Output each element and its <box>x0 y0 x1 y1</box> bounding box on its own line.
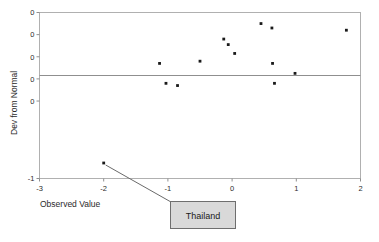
x-tick-label: -1 <box>165 184 172 193</box>
x-axis-title: Observed Value <box>40 199 101 209</box>
y-axis-title: Dev from Normal <box>9 71 19 135</box>
y-tick-label: 0 <box>30 8 34 17</box>
x-tick-label: 0 <box>230 184 234 193</box>
x-tick-label: -3 <box>36 184 43 193</box>
x-tick-label: 2 <box>358 184 362 193</box>
data-point <box>199 60 202 63</box>
data-point <box>176 84 179 87</box>
data-point <box>260 22 263 25</box>
y-tick-label: -1 <box>28 174 35 183</box>
x-axis-tick-labels: -3-2-1012 <box>36 184 362 193</box>
data-point <box>227 43 230 46</box>
data-point <box>271 62 274 65</box>
y-tick-label: 0 <box>30 97 34 106</box>
y-tick-label: 0 <box>30 30 34 39</box>
callout-box-label: Thailand <box>186 211 221 221</box>
callout-leader-line <box>106 165 171 202</box>
data-point <box>345 29 348 32</box>
y-tick-label: 0 <box>30 53 34 62</box>
data-point <box>158 62 161 65</box>
chart-container: 00000-1 -3-2-1012 Observed Value Dev fro… <box>0 0 379 242</box>
data-point <box>222 38 225 41</box>
thailand-callout[interactable]: Thailand <box>171 202 236 229</box>
plot-frame <box>40 13 361 179</box>
data-point-thailand <box>102 162 105 165</box>
y-tick-label: 0 <box>30 75 34 84</box>
scatter-plot-svg: 00000-1 -3-2-1012 Observed Value Dev fro… <box>0 0 379 242</box>
data-point <box>233 52 236 55</box>
x-tick-label: 1 <box>294 184 298 193</box>
data-point-series <box>102 22 347 164</box>
x-tick-label: -2 <box>100 184 107 193</box>
data-point <box>273 82 276 85</box>
data-point <box>165 82 168 85</box>
data-point <box>271 27 274 30</box>
data-point <box>294 72 297 75</box>
y-axis-tick-labels: 00000-1 <box>28 8 35 183</box>
